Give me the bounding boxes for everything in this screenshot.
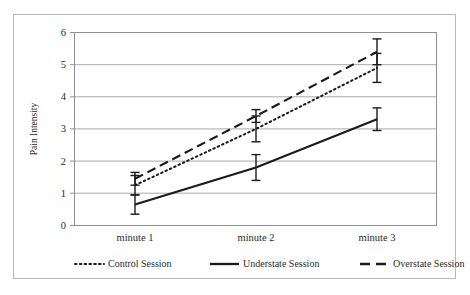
ytick-label-4: 4 [61,91,67,102]
xtick-label-minute-2: minute 2 [237,232,274,243]
legend-label-overstate: Overstate Session [393,258,464,269]
ytick-label-3: 3 [61,123,66,134]
ytick-label-0: 0 [61,220,66,231]
ytick-label-5: 5 [61,59,66,70]
legend-label-understate: Understate Session [243,258,319,269]
xtick-label-minute-3: minute 3 [358,232,395,243]
chart-figure: 6 5 4 3 2 1 0 Pain Intensity minute 1 mi… [0,0,470,295]
errorbar-control-minute-3 [373,53,382,82]
ytick-label-1: 1 [61,188,66,199]
ytick-label-2: 2 [61,156,66,167]
line-chart: 6 5 4 3 2 1 0 Pain Intensity minute 1 mi… [0,0,470,295]
xtick-label-minute-1: minute 1 [116,232,153,243]
ytick-label-6: 6 [61,27,66,38]
chart-legend: Control Session Understate Session Overs… [75,258,464,269]
y-axis-title: Pain Intensity [29,102,39,155]
errorbar-understate-minute-3 [373,108,382,131]
legend-label-control: Control Session [108,258,172,269]
